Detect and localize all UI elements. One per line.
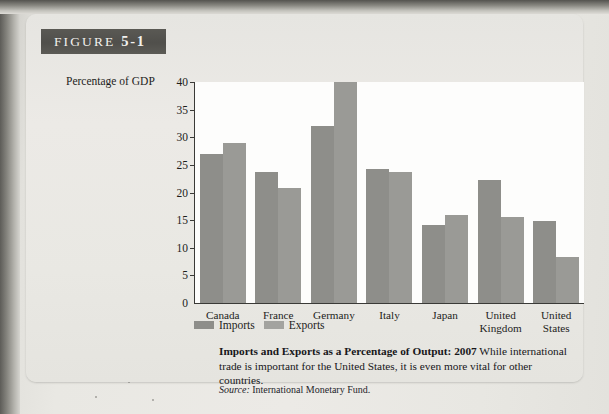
bar-imports: [366, 169, 389, 303]
figure-panel: FIGURE 5-1 Percentage of GDP 05101520253…: [26, 14, 583, 382]
figure-caption: Imports and Exports as a Percentage of O…: [219, 344, 574, 388]
bar-exports: [556, 257, 579, 303]
bar-exports: [334, 82, 357, 303]
figure-number-tag: FIGURE 5-1: [41, 29, 166, 54]
legend-label-exports: Exports: [289, 319, 325, 331]
bar-group: Canada: [195, 82, 251, 303]
x-axis-category-label: Japan: [432, 309, 457, 322]
chart-plot-area: 0510152025303540CanadaFranceGermanyItaly…: [195, 82, 584, 303]
legend-label-imports: Imports: [219, 319, 255, 331]
x-axis-category-label: UnitedKingdom: [479, 309, 521, 334]
bar-exports: [278, 188, 301, 303]
bar-group: Italy: [362, 82, 418, 303]
bar-exports: [223, 143, 246, 303]
figure-tag-word: FIGURE: [54, 34, 115, 50]
caption-title: Imports and Exports as a Percentage of O…: [219, 345, 477, 357]
bar-imports: [311, 126, 334, 303]
legend-swatch-exports-icon: [264, 321, 284, 329]
bar-exports: [445, 215, 468, 303]
x-axis-category-label: Italy: [379, 309, 400, 322]
bar-group: UnitedStates: [528, 82, 584, 303]
y-axis-tick-label: 10: [177, 242, 189, 254]
y-axis-tick-label: 25: [177, 159, 189, 171]
bar-imports: [200, 154, 223, 303]
y-axis-tick-label: 5: [182, 269, 188, 281]
bar-group: Japan: [417, 82, 473, 303]
bar-group: Germany: [306, 82, 362, 303]
x-axis-category-label: UnitedStates: [541, 309, 571, 334]
figure-source: Source: International Monetary Fund.: [219, 384, 370, 395]
scanned-page: FIGURE 5-1 Percentage of GDP 05101520253…: [0, 0, 609, 414]
y-axis-tick-label: 20: [177, 187, 189, 199]
page-top-margin-shadow: [0, 0, 609, 14]
y-axis-tick-label: 15: [177, 214, 189, 226]
y-axis-title: Percentage of GDP: [66, 75, 155, 87]
page-left-margin-shadow: [0, 0, 20, 414]
source-text: International Monetary Fund.: [252, 384, 370, 395]
y-axis-tick-label: 0: [182, 297, 188, 309]
chart-legend: Imports Exports: [194, 319, 325, 331]
bar-exports: [389, 172, 412, 303]
source-word: Source:: [219, 384, 250, 395]
bar-exports: [501, 217, 524, 303]
bar-imports: [255, 172, 278, 303]
legend-item-exports: Exports: [264, 319, 325, 331]
y-axis-tick-label: 35: [177, 104, 189, 116]
bar-group: France: [251, 82, 307, 303]
figure-tag-number: 5-1: [121, 33, 145, 50]
chart-plot-frame: 0510152025303540CanadaFranceGermanyItaly…: [194, 82, 584, 304]
bar-imports: [478, 180, 501, 303]
legend-item-imports: Imports: [194, 319, 255, 331]
bar-imports: [533, 221, 556, 303]
y-axis-tick-label: 40: [177, 76, 189, 88]
bar-imports: [422, 225, 445, 303]
y-axis-tick-label: 30: [177, 131, 189, 143]
bar-group: UnitedKingdom: [473, 82, 529, 303]
legend-swatch-imports-icon: [194, 321, 214, 329]
